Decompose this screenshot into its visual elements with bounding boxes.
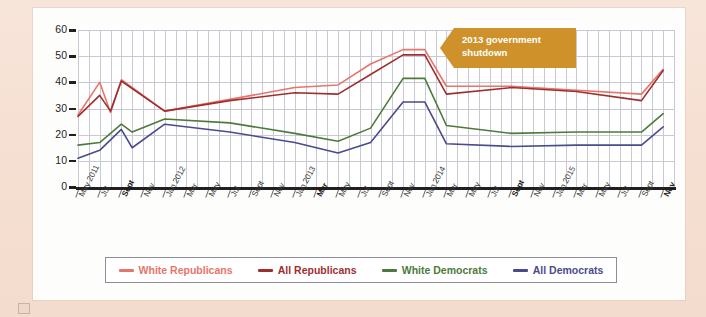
callout-line-2: shutdown [462,47,570,60]
legend-label: All Republicans [278,264,357,276]
y-axis-tick-mark [69,55,76,58]
y-axis-tick-mark [69,81,76,84]
chart-card: Percentage 0102030405060 May 2011JulSept… [33,8,685,300]
page-corner-mark [18,303,30,314]
legend-color-swatch [258,269,273,272]
y-axis-tick-label: 20 [45,128,67,140]
callout-line-1: 2013 government [462,34,570,47]
legend-label: All Democrats [533,264,604,276]
legend-color-swatch [382,269,397,272]
y-axis-tick-labels: 0102030405060 [41,8,67,238]
x-axis-labels: May 2011JulSeptNovJan 2012MarMayJulSeptN… [78,194,674,264]
vertical-gridline [674,30,675,187]
y-axis-tick-label: 50 [45,49,67,61]
legend-color-swatch [119,269,134,272]
y-axis-tick-label: 30 [45,102,67,114]
y-axis-tick-label: 0 [45,180,67,192]
y-axis-tick-label: 40 [45,75,67,87]
legend-item[interactable]: All Democrats [513,264,604,276]
chart-legend: White RepublicansAll RepublicansWhite De… [105,257,617,283]
y-axis-tick-label: 60 [45,23,67,35]
y-axis-tick-mark [69,186,76,189]
y-axis-tick-mark [69,108,76,111]
y-axis-tick-mark [69,29,76,32]
legend-item[interactable]: White Democrats [382,264,488,276]
legend-label: White Democrats [402,264,488,276]
series-lines [78,30,674,187]
series-line [78,78,663,145]
legend-item[interactable]: White Republicans [119,264,233,276]
legend-label: White Republicans [139,264,233,276]
y-axis-tick-mark [69,160,76,163]
y-axis-tick-label: 10 [45,154,67,166]
legend-item[interactable]: All Republicans [258,264,357,276]
plot-area-wrapper: Percentage 0102030405060 May 2011JulSept… [33,8,685,238]
shutdown-annotation-callout: 2013 government shutdown [440,28,576,68]
legend-color-swatch [513,269,528,272]
y-axis-tick-mark [69,134,76,137]
